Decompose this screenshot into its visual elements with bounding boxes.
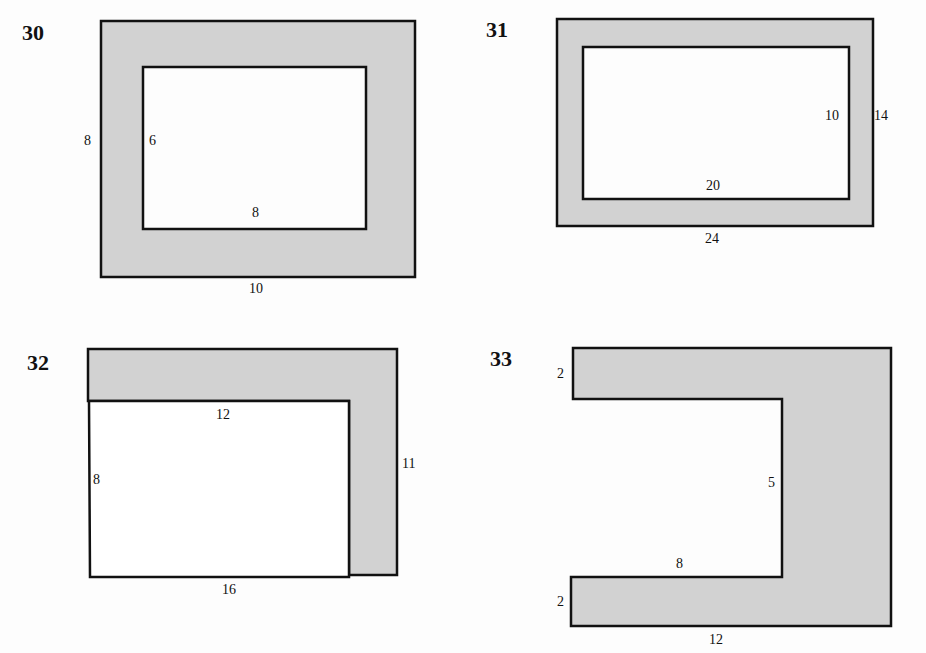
fig30-inner-width-label: 8 (252, 206, 259, 220)
fig32-inner-width-label: 12 (216, 408, 230, 422)
figure-30-shaded-frame (101, 21, 415, 277)
figure-number-32: 32 (27, 352, 49, 374)
fig33-top-arm-label: 2 (557, 367, 564, 381)
fig33-notch-height-label: 5 (768, 476, 775, 490)
figures-canvas (0, 0, 926, 653)
fig32-outer-height-label: 11 (402, 457, 415, 471)
fig30-outer-width-label: 10 (249, 282, 263, 296)
fig33-notch-width-label: 8 (676, 557, 683, 571)
figure-number-30: 30 (22, 22, 44, 44)
fig33-bottom-arm-label: 2 (557, 595, 564, 609)
fig30-inner-height-label: 6 (149, 134, 156, 148)
fig32-inner-height-label: 8 (93, 473, 100, 487)
figure-33-shaded-u-shape (571, 348, 891, 626)
figure-number-33: 33 (490, 348, 512, 370)
fig33-outer-width-label: 12 (709, 633, 723, 647)
figure-number-31: 31 (486, 19, 508, 41)
fig31-inner-width-label: 20 (706, 179, 720, 193)
fig31-outer-width-label: 24 (705, 232, 719, 246)
fig31-inner-height-label: 10 (825, 109, 839, 123)
figure-32-inner-rectangle (89, 401, 349, 577)
fig30-outer-height-label: 8 (84, 134, 91, 148)
fig32-outer-width-label: 16 (222, 583, 236, 597)
fig31-outer-height-label: 14 (874, 109, 888, 123)
